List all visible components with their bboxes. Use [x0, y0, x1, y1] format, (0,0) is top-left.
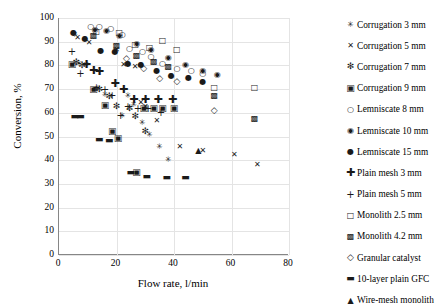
legend-item-label: Corrugation 7 mm	[357, 62, 426, 72]
legend-item[interactable]: □Monolith 2.5 mm	[344, 205, 442, 226]
legend-item[interactable]: ▩Monolith 4.2 mm	[344, 226, 442, 247]
data-point: ▲	[195, 147, 201, 155]
data-point: ◇	[173, 76, 180, 85]
square-open-icon: □	[344, 211, 357, 220]
asterisk-small-icon: ✳	[344, 20, 357, 29]
data-point: +	[108, 91, 116, 101]
data-point: □	[116, 29, 124, 37]
chart-root: Conversion, % 0102030405060708090100 ✳✳✳…	[0, 0, 442, 307]
asterisk-bold-icon: ✻	[344, 62, 357, 71]
circle-filled-icon: ●	[344, 147, 357, 156]
legend-item[interactable]: ▣Corrugation 9 mm	[344, 78, 442, 99]
triangle-filled-icon: ▲	[344, 296, 357, 305]
data-point: +	[144, 104, 152, 114]
data-point: +	[134, 104, 142, 114]
plus-bold-icon: ✚	[344, 168, 357, 177]
data-point: ✕	[254, 161, 261, 169]
data-point: ◉	[103, 27, 110, 35]
data-point: ▬	[163, 172, 172, 181]
legend-item-label: Monolith 2.5 mm	[357, 210, 422, 220]
y-tick-label: 60	[28, 108, 54, 118]
y-axis-title: Conversion, %	[11, 41, 23, 191]
legend-item[interactable]: ●Lemniscate 15 mm	[344, 141, 442, 162]
data-point: ●	[185, 74, 192, 82]
data-point: □	[173, 46, 181, 54]
data-point: ◇	[156, 74, 163, 83]
y-tick-label: 20	[28, 203, 54, 213]
data-point: ▩	[133, 52, 141, 60]
data-point: ✚	[154, 93, 163, 104]
data-point: ▩	[90, 32, 98, 40]
data-point: ✻	[113, 101, 121, 110]
data-point: ◇	[123, 54, 130, 63]
data-point: ✚	[95, 66, 104, 77]
circle-open-icon: ○	[344, 105, 357, 114]
circle-dot-icon: ◉	[344, 126, 357, 135]
data-point: ▬	[127, 168, 136, 177]
square-filled-split-icon: ▣	[344, 84, 357, 93]
diamond-open-icon: ◇	[344, 253, 357, 262]
data-point: ◉	[214, 71, 221, 79]
data-point: ◇	[211, 106, 218, 115]
data-point: ▩	[164, 63, 172, 71]
data-point: ✕	[231, 151, 238, 159]
legend-item[interactable]: ◇Granular catalyst	[344, 247, 442, 268]
x-axis-title: Flow rate, l/min	[88, 277, 258, 289]
x-axis-tick-labels: 020406080	[0, 259, 320, 273]
legend-item-label: Granular catalyst	[357, 253, 421, 263]
data-point: ✕	[153, 117, 160, 125]
data-point: ●	[199, 78, 206, 86]
data-point: +	[117, 111, 125, 121]
data-point: ▩	[113, 42, 121, 50]
data-point: ✚	[168, 93, 177, 104]
data-point: ▩	[210, 92, 218, 100]
data-point: ▩	[150, 58, 158, 66]
x-tick-label: 80	[273, 259, 303, 269]
y-tick-label: 10	[28, 226, 54, 236]
data-point: ✳	[165, 156, 172, 164]
y-tick-label: 30	[28, 179, 54, 189]
legend-item-label: Corrugation 3 mm	[357, 20, 426, 30]
data-point: ✕	[176, 143, 183, 151]
data-point: ◇	[140, 63, 147, 72]
legend-item[interactable]: ◉Lemniscate 10 mm	[344, 120, 442, 141]
legend-item-label: Lemniscate 10 mm	[357, 126, 428, 136]
legend-item[interactable]: ✚Plain mesh 3 mm	[344, 162, 442, 183]
legend-item[interactable]: ✳Corrugation 3 mm	[344, 14, 442, 35]
data-point: ▣	[114, 133, 123, 142]
data-point: ●	[70, 29, 77, 37]
data-point: □	[131, 41, 139, 49]
plus-thin-icon: +	[344, 190, 357, 199]
gridline-vertical	[232, 18, 233, 255]
gridline-vertical	[289, 18, 290, 255]
x-tick-label: 40	[158, 259, 188, 269]
data-point: +	[76, 69, 84, 79]
legend-item-label: Corrugation 5 mm	[357, 41, 426, 51]
data-point: ▣	[68, 60, 77, 69]
legend-item-label: Wire-mesh monolith	[357, 295, 434, 305]
x-tick-label: 0	[43, 259, 73, 269]
legend-item[interactable]: ✻Corrugation 7 mm	[344, 56, 442, 77]
legend-item[interactable]: +Plain mesh 5 mm	[344, 184, 442, 205]
data-point: ✻	[141, 126, 149, 135]
data-point: ◉	[182, 61, 189, 69]
legend-item[interactable]: ○Lemniscate 8 mm	[344, 99, 442, 120]
data-point: +	[124, 102, 132, 112]
data-point: ▬	[181, 172, 190, 181]
data-point: ◉	[199, 67, 206, 75]
y-tick-label: 70	[28, 84, 54, 94]
legend-item[interactable]: ✕Corrugation 5 mm	[344, 35, 442, 56]
legend-item-label: Plain mesh 3 mm	[357, 168, 422, 178]
legend-item[interactable]: ▲Wire-mesh monolith	[344, 289, 442, 307]
y-tick-label: 40	[28, 155, 54, 165]
data-point: +	[157, 108, 165, 118]
legend-item-label: Lemniscate 15 mm	[357, 147, 428, 157]
x-tick-label: 60	[216, 259, 246, 269]
legend-item-label: Lemniscate 8 mm	[357, 104, 424, 114]
y-tick-label: 50	[28, 132, 54, 142]
legend-item[interactable]: ▬10-layer plain GFC	[344, 268, 442, 289]
y-tick-label: 90	[28, 37, 54, 47]
legend-item-label: Plain mesh 5 mm	[357, 189, 422, 199]
chart-legend: ✳Corrugation 3 mm✕Corrugation 5 mm✻Corru…	[344, 14, 442, 307]
data-point: ✚	[119, 84, 128, 95]
